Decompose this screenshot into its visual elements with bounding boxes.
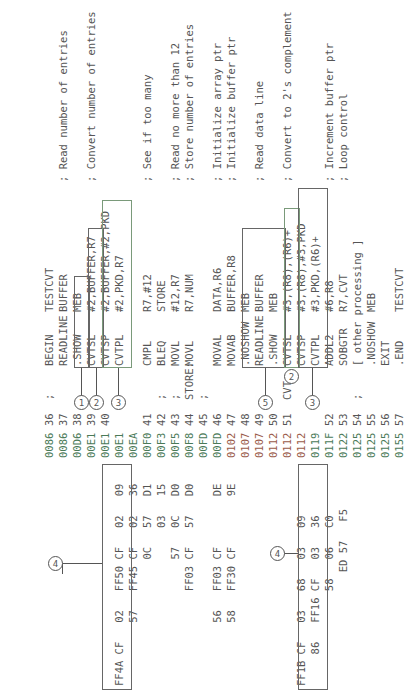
listing-line: 58 FF30 CF 9E010247MOVABBUFFER,R8; Initi…	[224, 0, 238, 694]
address: 00FD	[210, 433, 224, 458]
line-number: 45	[196, 413, 210, 426]
address: 00EA	[126, 433, 140, 458]
address: 00E1	[98, 433, 112, 458]
listing-line: ED 57 F5012253SOBGTRR7,CVT; Loop control	[336, 0, 350, 694]
marker-lead	[118, 368, 119, 396]
hex-box-1	[102, 464, 132, 690]
marker-2b: 2	[284, 369, 299, 384]
label: ;	[196, 394, 210, 400]
marker-4b: 4	[270, 546, 285, 561]
object-code: 03 15	[154, 484, 168, 686]
label: ;	[350, 394, 364, 400]
opcode: MOVL	[168, 341, 182, 366]
line-number: 36	[42, 413, 56, 426]
line-number: 38	[70, 413, 84, 426]
address: 0112	[280, 433, 294, 458]
listing-line: 03 1500F342;BLEQSTORE	[154, 0, 168, 694]
operands: TESTCVT	[42, 268, 56, 312]
operands: TESTCVT	[392, 268, 406, 312]
line-number: 46	[210, 413, 224, 426]
operands: R7,NUM	[182, 274, 196, 312]
line-number: 48	[238, 413, 252, 426]
object-code: 0C 57 D1	[140, 484, 154, 686]
line-number: 51	[280, 413, 294, 426]
operands: R7,CVT	[336, 274, 350, 312]
address: 00E1	[112, 433, 126, 458]
opcode: .END	[392, 341, 406, 366]
address: 0155	[392, 433, 406, 458]
line-number: 56	[378, 413, 392, 426]
address: 0107	[252, 433, 266, 458]
marker-lead	[96, 368, 97, 396]
hex-box-2	[298, 464, 328, 690]
marker-lead	[81, 368, 82, 396]
address: 00F5	[168, 433, 182, 458]
address: 0125	[350, 433, 364, 458]
operands: BUFFER	[56, 274, 70, 312]
label: ;	[154, 394, 168, 400]
opcode: [ other processing ]	[350, 240, 364, 366]
listing-line: 57 0C D000F543;MOVL#12,R7; Read no more …	[168, 0, 182, 694]
object-code: 56 FF03 CF DE	[210, 484, 224, 686]
comment: ; Convert number of entries	[84, 11, 98, 182]
marker-3b: 3	[305, 395, 320, 410]
address: 00F0	[140, 433, 154, 458]
marker-2: 2	[89, 395, 104, 410]
address: 0107	[238, 433, 252, 458]
operands: BUFFER,R8	[224, 255, 238, 312]
marker-lead	[312, 368, 313, 396]
listing-line: 012555.NOSHOWMEB	[364, 0, 378, 694]
listing-line: FF03 CF 57 D000F844STORE:MOVLR7,NUM; Sto…	[182, 0, 196, 694]
address: 011F	[322, 433, 336, 458]
opcode: EXIT	[378, 341, 392, 366]
label: STORE:	[182, 362, 196, 400]
operands: R7,#12	[140, 274, 154, 312]
cvtsp-cvtpl-box-2	[298, 188, 328, 368]
line-number: 53	[336, 413, 350, 426]
label: ;	[168, 394, 182, 400]
address: 00E1	[84, 433, 98, 458]
comment: ; Read number of entries	[56, 30, 70, 182]
opcode: MOVAL	[210, 334, 224, 366]
opcode: BLEQ	[154, 341, 168, 366]
address: 0086	[42, 433, 56, 458]
comment: ; Store number of entries	[182, 24, 196, 182]
line-number: 49	[252, 413, 266, 426]
line-number: 50	[266, 413, 280, 426]
line-number: 43	[168, 413, 182, 426]
listing-line: 008637READLINEBUFFER; Read number of ent…	[56, 0, 70, 694]
address: 00D6	[70, 433, 84, 458]
marker-3: 3	[111, 395, 126, 410]
object-code: FF03 CF 57 D0	[182, 484, 196, 686]
listing-line: 0C 57 D100F041CMPLR7,#12; See if too man…	[140, 0, 154, 694]
address: 0086	[56, 433, 70, 458]
comment: ; Initialize buffer ptr	[224, 37, 238, 182]
address: 0112	[266, 433, 280, 458]
opcode: CMPL	[140, 341, 154, 366]
operands: MEB	[364, 293, 378, 312]
label: ;	[42, 394, 56, 400]
opcode: MOVL	[182, 341, 196, 366]
address: 0102	[224, 433, 238, 458]
marker-5: 5	[258, 395, 273, 410]
comment: ; Initialize array ptr	[210, 43, 224, 182]
comment: ; Increment buffer ptr	[322, 43, 336, 182]
line-number: 41	[140, 413, 154, 426]
comment: ; Read data line	[252, 81, 266, 182]
line-number: 52	[322, 413, 336, 426]
listing-line: 00FD45;	[196, 0, 210, 694]
comment: ; Loop control	[336, 93, 350, 182]
address: 0122	[336, 433, 350, 458]
marker-lead	[284, 553, 298, 554]
line-number: 57	[392, 413, 406, 426]
opcode: MOVAB	[224, 334, 238, 366]
address: 0125	[378, 433, 392, 458]
address: 00FD	[196, 433, 210, 458]
line-number: 47	[224, 413, 238, 426]
opcode: BEGIN	[42, 334, 56, 366]
listing-line: 015557.ENDTESTCVT	[392, 0, 406, 694]
line-number: 37	[56, 413, 70, 426]
marker-lead	[265, 368, 266, 396]
address: 00F8	[182, 433, 196, 458]
